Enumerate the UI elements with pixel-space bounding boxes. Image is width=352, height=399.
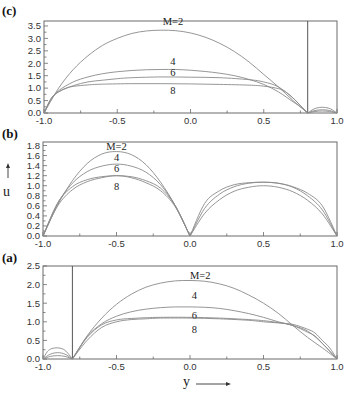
curve-m-6	[72, 317, 337, 359]
panel-label-b: (b)	[2, 126, 18, 141]
curve-m-4	[44, 69, 308, 113]
y-tick-label: 1.8	[27, 140, 40, 151]
curve-m-8	[44, 84, 308, 113]
y-tick-label: 2.5	[28, 45, 41, 56]
curve-label: M=2	[190, 270, 211, 281]
curve-label: 6	[114, 163, 119, 174]
u-axis-label: u	[3, 184, 10, 199]
curve-label: 6	[170, 67, 175, 78]
curve-label: 6	[192, 310, 197, 321]
y-tick-label: 0.0	[27, 230, 40, 241]
x-tick-label: 1.0	[330, 115, 343, 126]
plot-frame	[44, 21, 337, 113]
curve-label: 8	[114, 181, 119, 192]
x-tick-label: 0.0	[184, 115, 197, 126]
y-tick-label: 3.0	[28, 33, 41, 44]
x-tick-label: -0.5	[108, 238, 124, 249]
y-tick-label: 0.6	[27, 200, 40, 211]
panel-label-c: (c)	[2, 3, 16, 18]
curve-m-4	[72, 307, 337, 359]
curve-label: M=2	[163, 16, 184, 27]
panel-c-plot: -1.0-0.50.00.51.00.00.51.01.52.02.53.03.…	[28, 16, 344, 126]
y-tick-label: 0.4	[27, 210, 40, 221]
y-axis-label: y	[183, 374, 190, 389]
curve-m-6	[44, 77, 308, 113]
y-tick-label: 1.0	[27, 316, 40, 327]
y-tick-label: 1.0	[28, 82, 41, 93]
curve-m-2	[44, 30, 308, 113]
curve-label: 8	[192, 324, 197, 335]
curve-label: 4	[192, 290, 198, 301]
plot-frame	[43, 142, 337, 236]
y-tick-label: 1.0	[27, 180, 40, 191]
x-tick-label: 0.5	[257, 361, 270, 372]
x-tick-label: 0.5	[257, 238, 270, 249]
y-tick-label: 1.6	[27, 150, 40, 161]
figure-canvas: (c) (b) (a) -1.0-0.50.00.51.00.00.51.01.…	[0, 0, 352, 399]
curve-m-4-right-	[190, 182, 337, 236]
y-tick-label: 2.0	[27, 279, 40, 290]
y-tick-label: 2.0	[28, 58, 41, 69]
curve-m-8-right-	[190, 186, 337, 236]
y-tick-label: 0.2	[27, 220, 40, 231]
y-tick-label: 1.2	[27, 170, 40, 181]
x-tick-label: -0.5	[109, 115, 125, 126]
panel-b-plot: -1.0-0.50.00.51.00.00.20.40.60.81.01.21.…	[27, 140, 344, 249]
curve-m-2	[72, 280, 337, 359]
x-tick-label: 0.5	[257, 115, 270, 126]
right-arrow-head-icon	[226, 382, 231, 386]
y-tick-label: 0.5	[27, 335, 40, 346]
y-tick-label: 1.5	[27, 298, 40, 309]
y-tick-label: 3.5	[28, 20, 41, 31]
curve-m-4	[43, 164, 190, 236]
y-tick-label: 0.0	[28, 107, 41, 118]
y-tick-label: 1.4	[27, 160, 40, 171]
panel-a-plot: -1.0-0.50.00.51.00.00.51.01.52.02.5M=246…	[27, 260, 344, 372]
curve-m-2-right-	[190, 182, 337, 236]
x-tick-label: 1.0	[330, 361, 343, 372]
y-tick-label: 0.8	[27, 190, 40, 201]
y-tick-label: 0.0	[27, 353, 40, 364]
curve-label: 4	[114, 152, 120, 163]
curve-label: M=2	[106, 141, 127, 152]
y-tick-label: 1.5	[28, 70, 41, 81]
curve-label: 8	[170, 85, 175, 96]
y-axis-title: y	[183, 374, 231, 389]
curve-m-8	[72, 318, 337, 359]
up-arrow-head-icon	[6, 163, 10, 168]
panel-label-a: (a)	[2, 250, 17, 265]
x-tick-label: 0.0	[183, 238, 196, 249]
x-tick-label: 1.0	[330, 238, 343, 249]
y-tick-label: 2.5	[27, 260, 40, 271]
y-tick-label: 0.5	[28, 95, 41, 106]
x-tick-label: -0.5	[108, 361, 124, 372]
u-axis-title: u	[3, 163, 10, 199]
curve-label: 4	[170, 56, 176, 67]
x-tick-label: 0.0	[183, 361, 196, 372]
